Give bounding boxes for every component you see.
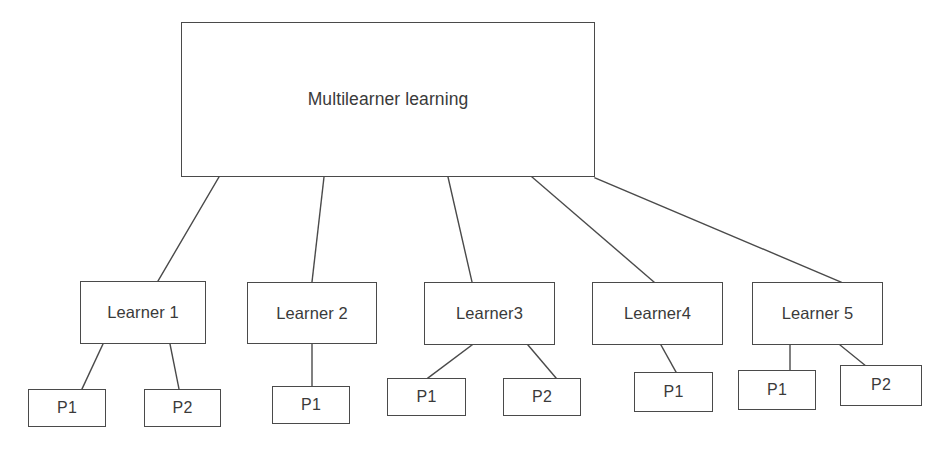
learner-node-1-label: Learner 1 xyxy=(107,303,179,322)
param-node-p-l1-2[interactable]: P2 xyxy=(144,389,221,427)
connector-root-to-learner-1 xyxy=(158,177,219,281)
connector-root-to-learner-3 xyxy=(448,177,472,282)
connector-learner-1-to-p-l1-2 xyxy=(170,344,179,389)
learner-node-5[interactable]: Learner 5 xyxy=(752,282,883,345)
connector-learner-4-to-p-l4-1 xyxy=(661,345,676,372)
param-node-p-l5-2[interactable]: P2 xyxy=(840,365,922,406)
connector-root-to-learner-5 xyxy=(595,178,841,282)
connector-learner-1-to-p-l1-1 xyxy=(82,344,103,389)
connector-root-to-learner-2 xyxy=(312,177,324,282)
root-node-multilearner-learning-label: Multilearner learning xyxy=(308,89,469,109)
param-node-p-l5-1[interactable]: P1 xyxy=(738,370,816,410)
param-node-p-l4-1[interactable]: P1 xyxy=(634,372,713,412)
learner-node-3-label: Learner3 xyxy=(456,304,523,323)
learner-node-4-label: Learner4 xyxy=(624,304,691,323)
param-node-p-l5-2-label: P2 xyxy=(871,376,891,394)
param-node-p-l3-2[interactable]: P2 xyxy=(503,378,581,416)
connector-learner-5-to-p-l5-2 xyxy=(840,345,866,366)
param-node-p-l4-1-label: P1 xyxy=(664,383,684,401)
param-node-p-l5-1-label: P1 xyxy=(767,381,787,399)
learner-node-1[interactable]: Learner 1 xyxy=(80,281,206,344)
connector-learner-3-to-p-l3-1 xyxy=(428,345,472,378)
param-node-p-l2-1[interactable]: P1 xyxy=(272,386,350,424)
learner-node-2[interactable]: Learner 2 xyxy=(247,282,377,344)
root-node-multilearner-learning[interactable]: Multilearner learning xyxy=(181,22,595,177)
param-node-p-l1-2-label: P2 xyxy=(173,399,193,417)
connector-root-to-learner-4 xyxy=(532,177,654,282)
learner-node-4[interactable]: Learner4 xyxy=(592,282,723,345)
param-node-p-l3-1[interactable]: P1 xyxy=(387,378,466,416)
param-node-p-l3-1-label: P1 xyxy=(417,388,437,406)
param-node-p-l2-1-label: P1 xyxy=(301,396,321,414)
learner-node-5-label: Learner 5 xyxy=(782,304,854,323)
learner-node-3[interactable]: Learner3 xyxy=(424,282,555,345)
connector-learner-3-to-p-l3-2 xyxy=(528,345,556,378)
diagram-canvas: Multilearner learningLearner 1Learner 2L… xyxy=(0,0,948,449)
param-node-p-l3-2-label: P2 xyxy=(532,388,552,406)
param-node-p-l1-1[interactable]: P1 xyxy=(28,389,106,427)
param-node-p-l1-1-label: P1 xyxy=(57,399,77,417)
learner-node-2-label: Learner 2 xyxy=(276,304,348,323)
